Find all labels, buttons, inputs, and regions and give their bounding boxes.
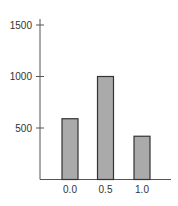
x-axis: 0.00.51.0	[40, 180, 171, 196]
bar-chart: 50010001500 0.00.51.0	[0, 0, 178, 206]
y-tick-label: 1500	[10, 20, 33, 31]
bars	[62, 77, 150, 180]
chart-canvas: 50010001500 0.00.51.0	[0, 0, 178, 206]
bar-0.5	[98, 77, 114, 180]
y-tick-label: 1000	[10, 71, 33, 82]
y-axis: 50010001500	[10, 19, 44, 180]
bar-1.0	[134, 136, 150, 179]
bar-0.0	[62, 119, 78, 180]
x-tick-label: 0.5	[99, 184, 113, 195]
x-tick-label: 1.0	[135, 184, 149, 195]
y-tick-label: 500	[15, 123, 32, 134]
x-tick-label: 0.0	[63, 184, 77, 195]
